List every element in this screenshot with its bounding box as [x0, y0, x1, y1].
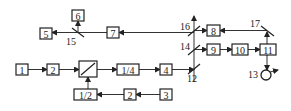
box-label: 2 [128, 90, 133, 101]
box-b4: 4 [160, 64, 172, 76]
box-label: 1 [20, 65, 25, 76]
box-label: 1/2 [79, 90, 92, 101]
box-label: 8 [211, 26, 216, 37]
box-label: 1/4 [122, 65, 135, 76]
box-label: 9 [211, 45, 216, 56]
box-b1: 1 [16, 64, 28, 76]
label-l14: 14 [180, 41, 190, 52]
box-b8: 8 [207, 25, 220, 37]
label-l12: 12 [187, 73, 197, 84]
box-label: 11 [263, 45, 273, 56]
box-label: 6 [76, 11, 81, 22]
box-label: 5 [44, 29, 49, 40]
box-b_q: 1/4 [117, 64, 139, 76]
box-label: 4 [164, 65, 169, 76]
box-b11: 11 [260, 44, 276, 56]
box-b3: 3 [160, 89, 172, 101]
box-b2a: 2 [47, 64, 59, 76]
box-b10: 10 [232, 44, 248, 56]
box-b2b: 2 [124, 89, 136, 101]
connections [28, 16, 267, 95]
box-b7: 7 [107, 27, 119, 39]
detector-13 [261, 70, 278, 80]
boxes: 121/441/223567891011 [16, 10, 276, 101]
box-label: 2 [51, 65, 56, 76]
box-label: 10 [235, 45, 245, 56]
box-b9: 9 [207, 44, 220, 56]
box-label: 7 [111, 28, 116, 39]
label-l17: 17 [250, 18, 260, 29]
box-b_h: 1/2 [74, 89, 97, 101]
box-b6: 6 [72, 10, 84, 22]
box-b5: 5 [40, 28, 52, 40]
box-label: 3 [164, 90, 169, 101]
label-l13: 13 [248, 69, 258, 80]
label-l16: 16 [180, 21, 190, 32]
label-l15: 15 [66, 36, 76, 47]
optical-setup-diagram: 121/441/223567891011 121314151617 [0, 0, 291, 111]
